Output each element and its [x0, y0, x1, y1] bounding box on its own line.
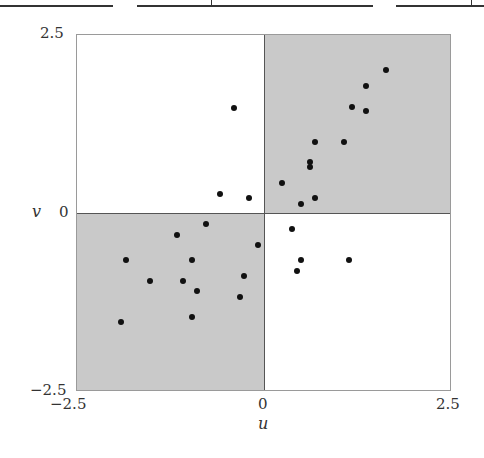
- data-point: [246, 195, 252, 201]
- data-point: [307, 164, 313, 170]
- data-point: [231, 105, 237, 111]
- shaded-quadrant-upper-right: [264, 35, 450, 213]
- data-point: [180, 278, 186, 284]
- data-point: [346, 257, 352, 263]
- data-point: [298, 201, 304, 207]
- data-point: [363, 108, 369, 114]
- x-tick-max: 2.5: [436, 395, 460, 413]
- data-point: [298, 257, 304, 263]
- x-axis-label: u: [258, 414, 268, 433]
- previous-figure-tick: [211, 0, 212, 6]
- data-point: [237, 294, 243, 300]
- previous-figure-tick: [471, 0, 472, 6]
- data-point: [294, 268, 300, 274]
- data-point: [217, 191, 223, 197]
- y-tick-zero: 0: [59, 203, 69, 221]
- data-point: [312, 195, 318, 201]
- x-tick-min: −2.5: [50, 395, 86, 413]
- scatter-plot-area: [76, 34, 451, 391]
- data-point: [118, 319, 124, 325]
- data-point: [123, 257, 129, 263]
- horizontal-zero-line: [77, 213, 450, 214]
- data-point: [312, 139, 318, 145]
- data-point: [174, 232, 180, 238]
- data-point: [189, 257, 195, 263]
- y-axis-label: v: [32, 202, 41, 221]
- data-point: [147, 278, 153, 284]
- data-point: [289, 226, 295, 232]
- data-point: [363, 83, 369, 89]
- previous-figure-fragment: [137, 5, 373, 7]
- data-point: [194, 288, 200, 294]
- data-point: [279, 180, 285, 186]
- data-point: [255, 242, 261, 248]
- data-point: [349, 104, 355, 110]
- data-point: [189, 314, 195, 320]
- y-tick-max: 2.5: [40, 24, 64, 42]
- previous-figure-fragment: [0, 5, 113, 7]
- data-point: [383, 67, 389, 73]
- data-point: [203, 221, 209, 227]
- x-tick-zero: 0: [258, 395, 268, 413]
- shaded-quadrant-lower-left: [77, 213, 264, 390]
- data-point: [241, 273, 247, 279]
- data-point: [341, 139, 347, 145]
